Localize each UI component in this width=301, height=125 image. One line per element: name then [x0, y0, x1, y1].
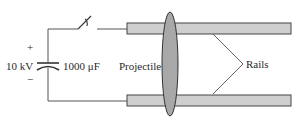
lower-rail: [127, 95, 291, 106]
railgun-diagram: + 10 kV − 1000 μF Projectile Rails: [0, 0, 301, 125]
upper-rail: [127, 23, 291, 34]
switch-icon: [78, 16, 91, 29]
minus-label: −: [27, 73, 33, 85]
capacitance-label: 1000 μF: [63, 60, 100, 72]
plus-label: +: [27, 41, 33, 53]
projectile: [162, 12, 178, 116]
rails-pointer-arrows: [213, 34, 243, 94]
voltage-label: 10 kV: [6, 60, 33, 72]
rails-label: Rails: [246, 58, 269, 70]
projectile-label: Projectile: [119, 60, 161, 72]
